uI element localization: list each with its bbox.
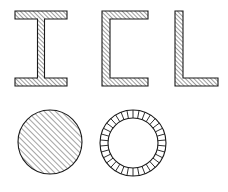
engineering-drawing: [0, 0, 228, 192]
tube-tick: [107, 123, 113, 128]
tube-tick: [153, 158, 159, 163]
shape-hollow-tube: [100, 110, 166, 176]
shape-l-angle: [175, 11, 218, 86]
tube-tick: [153, 123, 159, 128]
tube-tick: [146, 164, 150, 171]
tube-tick: [103, 128, 110, 132]
tube-tick: [121, 166, 124, 173]
tube-tick: [150, 119, 155, 125]
tube-tick: [100, 140, 108, 141]
tube-tick: [100, 145, 108, 146]
tube-tick: [101, 150, 109, 152]
tube-tick: [103, 154, 110, 158]
tube-tick: [107, 158, 113, 163]
hollow-tube-outer-outline: [100, 110, 166, 176]
tube-tick: [157, 134, 165, 136]
tube-tick: [150, 161, 155, 167]
i-beam-hatch-fill: [15, 11, 67, 86]
tube-tick: [146, 115, 150, 122]
tube-tick: [101, 134, 109, 136]
tube-tick: [111, 161, 116, 167]
tube-tick: [155, 128, 162, 132]
tube-tick: [127, 111, 128, 119]
tube-tick: [116, 164, 120, 171]
tube-tick: [138, 111, 139, 119]
tube-tick: [158, 145, 166, 146]
sections-canvas: [0, 0, 228, 192]
c-channel-hatch-fill: [102, 11, 148, 86]
shape-c-channel: [102, 11, 148, 86]
tube-tick: [121, 112, 124, 119]
tube-tick: [157, 150, 165, 152]
tube-tick: [138, 168, 139, 176]
tube-tick: [142, 166, 145, 173]
shape-solid-round-bar: [18, 110, 82, 174]
l-angle-hatch-fill: [175, 11, 218, 86]
tube-tick: [158, 140, 166, 141]
tube-tick: [127, 168, 128, 176]
tube-tick: [111, 119, 116, 125]
hollow-tube-inner-outline: [108, 118, 158, 168]
shape-i-beam: [15, 11, 67, 86]
tube-tick: [142, 112, 145, 119]
tube-tick: [155, 154, 162, 158]
tube-tick: [116, 115, 120, 122]
